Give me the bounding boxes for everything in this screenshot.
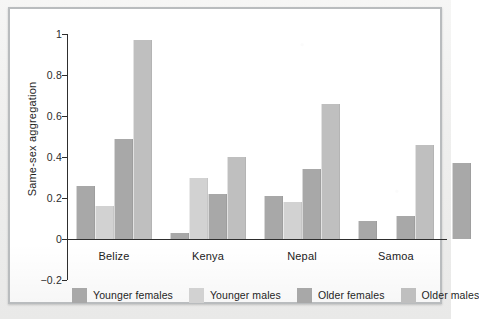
y-axis-tick [62, 280, 67, 281]
legend-label: Older females [318, 289, 385, 301]
y-axis-tick-label: 0 [56, 233, 62, 245]
bar [321, 104, 340, 239]
bar [283, 202, 302, 239]
y-axis-title: Same-sex aggregation [24, 49, 40, 229]
y-axis-tick-label: 0.6 [47, 110, 62, 122]
bar-fill [189, 178, 208, 240]
bar-fill [264, 196, 283, 239]
y-axis-tick-label: 0.4 [47, 151, 62, 163]
y-axis-tick [62, 75, 67, 76]
bar-fill [283, 202, 302, 239]
bar-fill [114, 139, 133, 239]
bar [302, 169, 321, 239]
x-axis-line [67, 239, 447, 240]
plot-area: 10.80.60.40.20−0.2 BelizeKenyaNepalSamoa [67, 34, 453, 239]
bar [170, 233, 189, 239]
y-axis-tick-label: 0.8 [47, 69, 62, 81]
legend-swatch [297, 288, 312, 303]
y-axis-tick-label: 1 [56, 28, 62, 40]
bar-fill [95, 206, 114, 239]
legend-label: Younger females [93, 289, 173, 301]
legend-swatch [401, 288, 416, 303]
legend-label: Younger males [210, 289, 281, 301]
figure-frame: Same-sex aggregation 10.80.60.40.20−0.2 … [8, 7, 442, 304]
bar-fill [321, 104, 340, 239]
bar [208, 194, 227, 239]
bar-fill [302, 169, 321, 239]
legend-swatch [189, 288, 204, 303]
legend-item[interactable]: Older females [297, 288, 385, 303]
bar-fill [415, 145, 434, 239]
x-axis-category-label: Kenya [192, 250, 224, 262]
bar-fill [227, 157, 246, 239]
legend-label: Older males [422, 289, 479, 301]
bar-fill [452, 163, 471, 239]
y-axis-tick [62, 198, 67, 199]
bar [114, 139, 133, 239]
y-axis-tick [62, 34, 67, 35]
bar-fill [396, 216, 415, 239]
bar [358, 221, 377, 239]
y-axis-title-text: Same-sex aggregation [26, 82, 38, 197]
chart-legend: Younger femalesYounger malesOlder female… [20, 284, 450, 306]
bar [264, 196, 283, 239]
legend-item[interactable]: Younger females [72, 288, 173, 303]
bar-fill [358, 221, 377, 239]
y-axis-tick [62, 239, 67, 240]
bar [95, 206, 114, 239]
legend-item[interactable]: Older males [401, 288, 479, 303]
y-axis-line [67, 34, 68, 280]
bar-fill [208, 194, 227, 239]
bar-clipped [452, 163, 471, 239]
bar-fill [170, 233, 189, 239]
bar [76, 186, 95, 239]
y-axis-tick-label: 0.2 [47, 192, 62, 204]
x-axis-category-label: Nepal [287, 250, 317, 262]
bar [189, 178, 208, 240]
y-axis-tick [62, 157, 67, 158]
bar [396, 216, 415, 239]
x-axis-category-label: Samoa [378, 250, 414, 262]
bar-fill [76, 186, 95, 239]
legend-item[interactable]: Younger males [189, 288, 281, 303]
y-axis-tick [62, 116, 67, 117]
x-axis-category-label: Belize [98, 250, 129, 262]
bar [227, 157, 246, 239]
bar [133, 40, 152, 239]
bar [415, 145, 434, 239]
bar-fill [133, 40, 152, 239]
legend-swatch [72, 288, 87, 303]
